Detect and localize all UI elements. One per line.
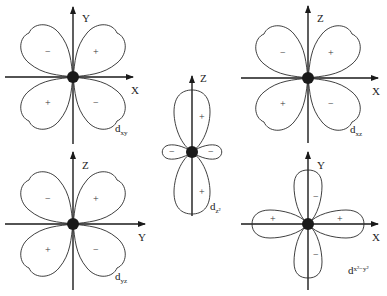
sign-bottom: + bbox=[199, 186, 205, 197]
sign-lower-right: − bbox=[93, 97, 99, 108]
h-axis-label: X bbox=[372, 85, 380, 97]
sign-top: + bbox=[199, 111, 205, 122]
v-axis-label: Z bbox=[200, 72, 207, 84]
orbital-label: dx²−y² bbox=[348, 264, 369, 276]
sign-right: − bbox=[208, 146, 214, 157]
sign-upper-left: − bbox=[45, 193, 51, 204]
nucleus bbox=[67, 71, 79, 83]
sign-upper-left: − bbox=[280, 47, 286, 58]
h-axis-label: X bbox=[372, 231, 380, 243]
orbital-label: dz² bbox=[210, 200, 221, 215]
orbital-label: dxy bbox=[115, 122, 128, 137]
sign-upper-right: + bbox=[328, 47, 334, 58]
sign-lower-right: − bbox=[93, 244, 99, 255]
sign-lower-left: + bbox=[45, 97, 51, 108]
v-axis-label: Z bbox=[317, 12, 324, 24]
v-axis-label: Z bbox=[82, 159, 89, 171]
d-orbitals-diagram: Y X − + + − dxy Z + + − − dz² Z X bbox=[0, 0, 387, 296]
sign-upper-right: + bbox=[93, 193, 99, 204]
nucleus bbox=[302, 72, 314, 84]
orbital-dxz: Z X − + + − dxz bbox=[241, 6, 380, 143]
sign-lower-left: + bbox=[280, 98, 286, 109]
v-axis-label: Y bbox=[82, 12, 90, 24]
sign-lower-right: − bbox=[328, 98, 334, 109]
nucleus bbox=[67, 218, 79, 230]
lobe-upper-right bbox=[73, 172, 125, 224]
orbital-dx2-y2: Y X − − + + dx²−y² bbox=[241, 152, 380, 290]
h-axis-label: X bbox=[131, 84, 139, 96]
orbital-dz2: Z + + − − dz² bbox=[162, 72, 222, 216]
orbital-dxy: Y X − + + − dxy bbox=[5, 7, 139, 144]
v-axis-label: Y bbox=[317, 159, 325, 171]
sign-upper-left: − bbox=[45, 46, 51, 57]
lobe-lower-right bbox=[73, 224, 125, 276]
nucleus bbox=[186, 146, 198, 158]
lobe-upper-right bbox=[73, 25, 125, 77]
sign-left: − bbox=[169, 146, 175, 157]
lobe-upper-right bbox=[308, 26, 360, 78]
sign-right: + bbox=[337, 213, 343, 224]
sign-top: − bbox=[313, 191, 319, 202]
sign-upper-right: + bbox=[93, 46, 99, 57]
sign-bottom: − bbox=[313, 249, 319, 260]
orbital-label: dyz bbox=[115, 270, 127, 285]
orbital-dyz: Z Y − + + − dyz bbox=[5, 152, 146, 290]
orbital-label: dxz bbox=[350, 123, 362, 138]
nucleus bbox=[302, 218, 314, 230]
h-axis-label: Y bbox=[138, 231, 146, 243]
sign-lower-left: + bbox=[45, 244, 51, 255]
sign-left: + bbox=[270, 213, 276, 224]
